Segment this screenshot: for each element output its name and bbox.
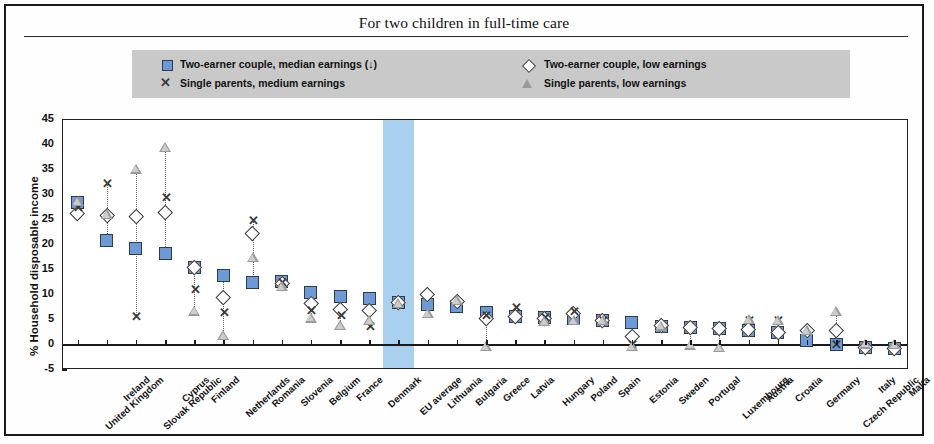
data-point-triangle: [247, 252, 259, 262]
data-point-triangle: [130, 164, 142, 174]
triangle-inner: [569, 317, 577, 324]
data-point-square: [100, 234, 113, 247]
triangle-inner: [336, 322, 344, 329]
legend-marker-cross: ✕: [160, 76, 171, 89]
triangle-inner: [423, 310, 431, 317]
data-point-triangle: [72, 196, 84, 206]
legend-marker-diamond: [522, 59, 536, 73]
x-tick-mark: [136, 340, 138, 345]
data-point-square: [246, 276, 259, 289]
data-point-triangle: [363, 315, 375, 325]
y-tick-label: 20: [28, 237, 54, 249]
data-point-diamond: [158, 205, 173, 220]
triangle-inner: [161, 144, 169, 151]
data-point-triangle: [188, 306, 200, 316]
x-tick-mark: [690, 340, 692, 345]
triangle-inner: [365, 317, 373, 324]
chart-frame: For two children in full-time care Two-e…: [4, 4, 924, 436]
legend-marker-square: [162, 60, 173, 71]
legend-label-two-earner-median: Two-earner couple, median earnings (↓): [180, 58, 377, 70]
data-point-triangle: [334, 320, 346, 330]
triangle-inner: [773, 317, 781, 324]
triangle-inner: [306, 314, 314, 321]
x-tick-mark: [78, 340, 80, 345]
eu-average-highlight-band: [383, 120, 413, 369]
data-point-cross: ✕: [248, 214, 259, 227]
data-point-triangle: [451, 295, 463, 305]
x-tick-mark: [778, 340, 780, 345]
x-axis-label: Croatia: [792, 374, 824, 404]
data-point-triangle: [305, 313, 317, 323]
data-point-triangle: [392, 298, 404, 308]
x-axis-label: Latvia: [528, 374, 556, 401]
y-tick-mark: [62, 369, 67, 371]
chart-legend: Two-earner couple, median earnings (↓) ✕…: [132, 50, 850, 98]
data-point-triangle: [538, 316, 550, 326]
y-tick-label: 15: [28, 262, 54, 274]
data-point-cross: ✕: [511, 301, 522, 314]
data-point-cross: ✕: [481, 309, 492, 322]
data-point-triangle: [101, 209, 113, 219]
triangle-inner: [831, 308, 839, 315]
data-point-triangle: [422, 308, 434, 318]
y-tick-label: 5: [28, 312, 54, 324]
data-point-triangle: [801, 325, 813, 335]
y-tick-label: 25: [28, 212, 54, 224]
data-point-triangle: [772, 315, 784, 325]
y-tick-label: -5: [28, 362, 54, 374]
data-point-triangle: [159, 142, 171, 152]
x-tick-mark: [865, 340, 867, 345]
x-tick-mark: [457, 340, 459, 345]
data-point-square: [217, 269, 230, 282]
data-point-triangle: [568, 315, 580, 325]
x-tick-mark: [515, 340, 517, 345]
triangle-inner: [394, 300, 402, 307]
x-tick-mark: [807, 340, 809, 345]
x-tick-mark: [398, 340, 400, 345]
triangle-inner: [656, 322, 664, 329]
data-point-triangle: [830, 306, 842, 316]
triangle-inner: [744, 316, 752, 323]
x-tick-mark: [428, 340, 430, 345]
legend-label-single-medium: Single parents, medium earnings: [180, 77, 345, 89]
triangle-inner: [598, 317, 606, 324]
data-point-cross: ✕: [190, 283, 201, 296]
y-tick-label: 35: [28, 162, 54, 174]
x-tick-mark: [340, 340, 342, 345]
triangle-inner: [73, 198, 81, 205]
x-tick-mark: [223, 340, 225, 345]
x-tick-mark: [719, 340, 721, 345]
x-axis-label: Germany: [824, 374, 862, 410]
plot-area: ✕✕✕✕✕✕✕✕✕✕✕✕✕✕✕✕✕✕✕✕: [62, 119, 908, 369]
x-tick-mark: [544, 340, 546, 345]
y-tick-label: 10: [28, 287, 54, 299]
x-tick-mark: [749, 340, 751, 345]
x-tick-mark: [107, 340, 109, 345]
chart-title: For two children in full-time care: [6, 14, 922, 32]
data-point-square: [625, 316, 638, 329]
x-tick-mark: [661, 340, 663, 345]
triangle-inner: [102, 211, 110, 218]
triangle-inner: [452, 297, 460, 304]
x-axis-label: Denmark: [386, 374, 424, 410]
data-point-square: [129, 242, 142, 255]
triangle-inner: [248, 254, 256, 261]
triangle-inner: [540, 318, 548, 325]
data-point-triangle: [217, 330, 229, 340]
data-point-cross: ✕: [219, 306, 230, 319]
x-axis-label: Portugal: [706, 374, 742, 408]
legend-marker-triangle: [522, 79, 532, 88]
data-point-square: [334, 290, 347, 303]
triangle-inner: [277, 283, 285, 290]
x-tick-mark: [574, 340, 576, 345]
y-tick-label: 40: [28, 137, 54, 149]
x-tick-mark: [282, 340, 284, 345]
triangle-inner: [802, 327, 810, 334]
x-tick-mark: [836, 340, 838, 345]
data-point-square: [159, 247, 172, 260]
x-tick-mark: [603, 340, 605, 345]
data-point-cross: ✕: [102, 177, 113, 190]
x-tick-mark: [632, 340, 634, 345]
legend-label-single-low: Single parents, low earnings: [544, 77, 686, 89]
data-point-triangle: [743, 314, 755, 324]
